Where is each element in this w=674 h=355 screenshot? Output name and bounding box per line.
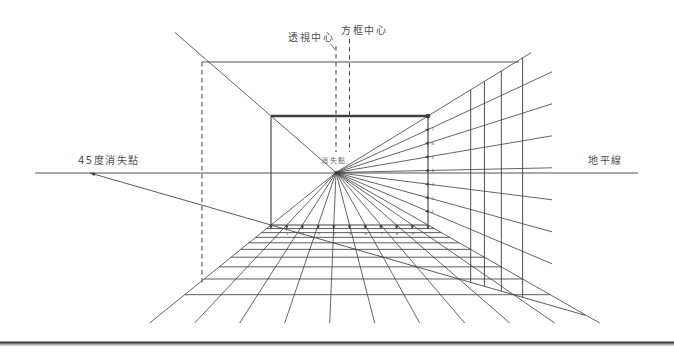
right-tick-number: 1 (431, 209, 434, 214)
page-bottom-border-group (0, 342, 674, 346)
right-tick-number: 6 (431, 141, 434, 146)
label-45deg-vanishing-point: 45度消失點 (78, 154, 140, 166)
wall-ray (336, 136, 552, 173)
vanishing-point-dot (334, 171, 337, 174)
picture-box-group (271, 114, 430, 225)
right-wall-grid-group (471, 58, 523, 297)
bottom-border-dark-line (0, 342, 674, 344)
perspective-construction-diagram: 1234567891234567 透視中心 方框中心 45度消失點 地平線 消失… (0, 0, 674, 355)
corner-ray-bottom-right (336, 173, 600, 324)
right-tick-number: 5 (431, 155, 434, 160)
bottom-tick-number: 1 (286, 231, 289, 236)
floor-grid-group (185, 229, 550, 295)
floor-ray (195, 173, 336, 324)
right-tick-number: 4 (431, 168, 434, 173)
bottom-tick-number: 5 (349, 231, 352, 236)
floor-ray (336, 173, 420, 324)
right-tick-mark (425, 155, 429, 158)
bottom-tick-number: 6 (364, 231, 367, 236)
bottom-tick-number: 7 (380, 231, 383, 236)
label-box-center: 方框中心 (341, 24, 387, 36)
floor-ray (285, 173, 336, 324)
vanishing-rays-group (90, 33, 600, 323)
label-horizon-line: 地平線 (588, 154, 623, 166)
right-tick-number: 7 (431, 127, 434, 132)
label-perspective-center: 透視中心 (288, 31, 334, 43)
corner-ray-top-left (175, 33, 336, 173)
bottom-border-light-line (0, 344, 674, 345)
right-tick-mark (425, 182, 429, 185)
right-tick-number: 2 (431, 196, 434, 201)
wall-ray (336, 168, 552, 173)
wall-ray (336, 72, 552, 173)
bottom-tick-number: 2 (302, 231, 305, 236)
box-corner-dot (426, 114, 431, 119)
bottom-tick-number: 4 (333, 231, 336, 236)
right-tick-mark (425, 196, 429, 199)
wall-ray (336, 104, 552, 173)
label-vanishing-point: 消失點 (321, 156, 347, 165)
right-tick-mark (425, 169, 429, 172)
bottom-tick-number: 9 (412, 231, 415, 236)
right-tick-number: 3 (431, 182, 434, 187)
floor-ray (240, 173, 336, 324)
corner-ray-bottom-left (150, 173, 336, 324)
floor-ray (336, 173, 510, 324)
wall-ray (336, 173, 552, 232)
diagonal-45-arrowhead (90, 173, 95, 176)
floor-ray (330, 173, 336, 324)
perspective-lesson-page: 1234567891234567 透視中心 方框中心 45度消失點 地平線 消失… (0, 0, 674, 355)
perspective-center-leader-line (331, 44, 336, 50)
labels-group: 透視中心 方框中心 45度消失點 地平線 消失點 (78, 24, 623, 166)
